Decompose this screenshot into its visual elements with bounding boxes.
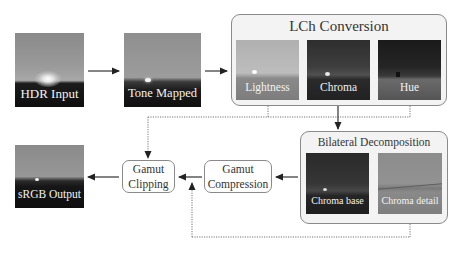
hdr-input-label: HDR Input [15, 86, 84, 102]
chroma-base-label: Chroma base [306, 195, 369, 206]
sun-dot-icon [325, 72, 330, 76]
hdr-input-image: HDR Input [15, 33, 84, 107]
hue-marker-icon [396, 72, 400, 77]
tone-mapped-label: Tone Mapped [124, 86, 201, 101]
lightness-label: Lightness [236, 81, 299, 93]
srgb-output-label: sRGB Output [15, 188, 84, 200]
gamut-compression-line1: Gamut [208, 162, 269, 177]
sun-dot-icon [252, 70, 257, 74]
sun-dot-icon [35, 178, 39, 181]
sun-dot-icon [323, 188, 327, 191]
chroma-label: Chroma [307, 81, 370, 93]
tone-mapped-image: Tone Mapped [124, 33, 201, 107]
chroma-detail-image: Chroma detail [378, 153, 442, 214]
chroma-detail-label: Chroma detail [378, 195, 442, 206]
srgb-output-image: sRGB Output [15, 145, 84, 208]
bilateral-decomposition-title: Bilateral Decomposition [301, 136, 447, 148]
sun-dot-icon [145, 78, 151, 82]
hue-label: Hue [378, 81, 441, 93]
gamut-clipping-node: Gamut Clipping [122, 160, 175, 193]
gamut-compression-node: Gamut Compression [204, 160, 272, 193]
lch-conversion-title: LCh Conversion [232, 18, 446, 35]
gamut-clipping-line2: Clipping [128, 177, 168, 192]
hue-image: Hue [378, 40, 441, 100]
detail-edge-line [378, 183, 442, 190]
chroma-base-image: Chroma base [306, 153, 369, 214]
gamut-clipping-line1: Gamut [128, 162, 168, 177]
chroma-image: Chroma [307, 40, 370, 100]
gamut-compression-line2: Compression [208, 177, 269, 192]
lightness-image: Lightness [236, 40, 299, 100]
sun-glow-icon [35, 71, 61, 87]
